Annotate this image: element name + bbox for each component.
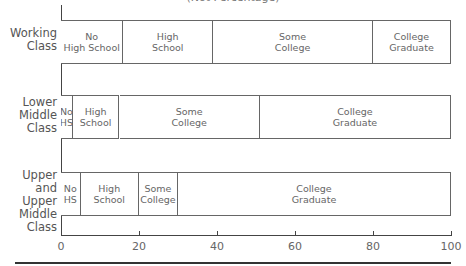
bar-row: NoHSHighSchoolSomeCollegeCollegeGraduate xyxy=(61,95,451,139)
x-tick xyxy=(61,231,62,236)
category-label: WorkingClass xyxy=(0,27,57,53)
bar-segment: HighSchool xyxy=(123,20,213,64)
x-tick-label: 80 xyxy=(353,240,393,253)
bar-segment: SomeCollege xyxy=(120,95,260,139)
x-tick xyxy=(139,231,140,236)
x-tick-label: 100 xyxy=(431,240,466,253)
bar-segment: NoHS xyxy=(61,95,73,139)
bar-segment: SomeCollege xyxy=(139,172,178,216)
x-tick-label: 40 xyxy=(197,240,237,253)
x-tick-label: 20 xyxy=(119,240,159,253)
category-label: LowerMiddleClass xyxy=(0,96,57,135)
bottom-rule xyxy=(15,262,451,264)
bar-segment: NoHS xyxy=(61,172,81,216)
bar-row: NoHigh SchoolHighSchoolSomeCollegeColleg… xyxy=(61,20,451,64)
bar-segment: HighSchool xyxy=(73,95,120,139)
x-tick xyxy=(373,231,374,236)
category-label: Upperand UpperMiddleClass xyxy=(0,169,57,234)
x-tick xyxy=(451,231,452,236)
bar-row: NoHSHighSchoolSomeCollegeCollegeGraduate xyxy=(61,172,451,216)
bar-segment: CollegeGraduate xyxy=(373,20,451,64)
bar-segment: CollegeGraduate xyxy=(178,172,451,216)
bar-segment: CollegeGraduate xyxy=(260,95,451,139)
bar-segment: HighSchool xyxy=(81,172,140,216)
bar-segment: SomeCollege xyxy=(213,20,373,64)
x-tick xyxy=(217,231,218,236)
x-axis xyxy=(61,235,451,236)
x-tick xyxy=(295,231,296,236)
bar-segment: NoHigh School xyxy=(61,20,123,64)
chart-title: (Not Percentage) xyxy=(0,0,466,4)
x-tick-label: 60 xyxy=(275,240,315,253)
x-tick-label: 0 xyxy=(41,240,81,253)
